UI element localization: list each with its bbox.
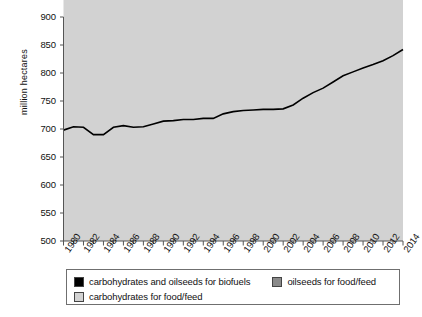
legend-label-oilseeds: oilseeds for food/feed (287, 276, 376, 287)
legend-row-top: carbohydrates and oilseeds for biofuels … (74, 274, 394, 289)
y-tick-label: 900 (22, 11, 56, 22)
y-tick-label: 750 (22, 95, 56, 106)
legend-swatch-carbohydrates-icon (74, 292, 84, 302)
y-tick-label: 650 (22, 151, 56, 162)
legend-item-carbohydrates: carbohydrates for food/feed (74, 291, 203, 302)
legend-item-biofuels: carbohydrates and oilseeds for biofuels (74, 276, 250, 287)
legend-label-biofuels: carbohydrates and oilseeds for biofuels (89, 276, 250, 287)
area-series-0 (64, 0, 404, 241)
y-tick-label: 500 (22, 235, 56, 246)
legend-row-bottom: carbohydrates for food/feed (74, 289, 394, 304)
y-tick-label: 700 (22, 123, 56, 134)
legend-swatch-biofuels-icon (74, 277, 84, 287)
y-tick-label: 600 (22, 179, 56, 190)
y-tick-label: 800 (22, 67, 56, 78)
legend-item-oilseeds: oilseeds for food/feed (272, 276, 376, 287)
legend-label-carbohydrates: carbohydrates for food/feed (89, 291, 203, 302)
y-tick-label: 850 (22, 39, 56, 50)
chart-legend: carbohydrates and oilseeds for biofuels … (66, 269, 400, 305)
y-tick-label: 550 (22, 207, 56, 218)
legend-swatch-oilseeds-icon (272, 277, 282, 287)
